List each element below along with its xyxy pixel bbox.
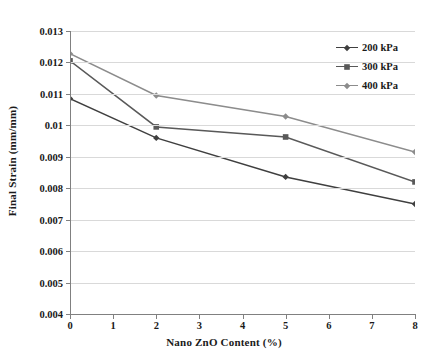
gridline: [70, 188, 415, 189]
x-tick-mark: [372, 315, 373, 319]
x-tick-mark: [415, 315, 416, 319]
legend-label: 200 kPa: [362, 42, 398, 53]
legend-swatch-icon: [336, 62, 358, 72]
y-tick-label: 0.008: [39, 183, 63, 194]
chart-legend: 200 kPa300 kPa400 kPa: [336, 38, 442, 95]
x-tick-label: 8: [412, 320, 417, 331]
legend-item[interactable]: 300 kPa: [336, 57, 442, 76]
y-tick-mark: [66, 94, 70, 95]
y-tick-mark: [66, 283, 70, 284]
x-tick-label: 0: [67, 320, 72, 331]
x-tick-mark: [113, 315, 114, 319]
gridline: [70, 220, 415, 221]
gridline: [70, 125, 415, 126]
y-tick-label: 0.011: [40, 88, 63, 99]
gridline: [70, 251, 415, 252]
x-tick-mark: [199, 315, 200, 319]
y-tick-mark: [66, 62, 70, 63]
y-tick-label: 0.007: [39, 214, 63, 225]
x-tick-label: 7: [369, 320, 374, 331]
x-tick-label: 3: [197, 320, 202, 331]
gridline: [70, 31, 415, 32]
y-tick-label: 0.004: [39, 309, 63, 320]
x-tick-label: 1: [111, 320, 116, 331]
y-tick-label: 0.012: [39, 57, 63, 68]
y-tick-mark: [66, 251, 70, 252]
y-tick-label: 0.009: [39, 151, 63, 162]
legend-swatch-icon: [336, 81, 358, 91]
gridline: [70, 157, 415, 158]
legend-item[interactable]: 200 kPa: [336, 38, 442, 57]
y-tick-mark: [66, 157, 70, 158]
y-tick-label: 0.006: [39, 246, 63, 257]
x-tick-mark: [243, 315, 244, 319]
legend-label: 400 kPa: [362, 80, 398, 91]
x-tick-mark: [286, 315, 287, 319]
x-tick-label: 6: [326, 320, 331, 331]
x-tick-mark: [329, 315, 330, 319]
x-axis-title: Nano ZnO Content (%): [0, 336, 448, 348]
legend-label: 300 kPa: [362, 61, 398, 72]
y-tick-label: 0.005: [39, 277, 63, 288]
gridline: [70, 283, 415, 284]
legend-item[interactable]: 400 kPa: [336, 76, 442, 95]
y-tick-mark: [66, 220, 70, 221]
y-axis-line: [70, 31, 71, 315]
x-tick-label: 4: [240, 320, 245, 331]
x-tick-mark: [70, 315, 71, 319]
y-tick-mark: [66, 188, 70, 189]
x-tick-label: 2: [154, 320, 159, 331]
y-tick-mark: [66, 125, 70, 126]
chart-figure: 0.0040.0050.0060.0070.0080.0090.010.0110…: [0, 0, 448, 354]
y-tick-mark: [66, 31, 70, 32]
x-tick-label: 5: [283, 320, 288, 331]
y-axis-title: Final Strain (mm/mm): [6, 81, 18, 241]
legend-swatch-icon: [336, 43, 358, 53]
y-tick-label: 0.01: [45, 120, 63, 131]
y-tick-label: 0.013: [39, 26, 63, 37]
x-tick-mark: [156, 315, 157, 319]
